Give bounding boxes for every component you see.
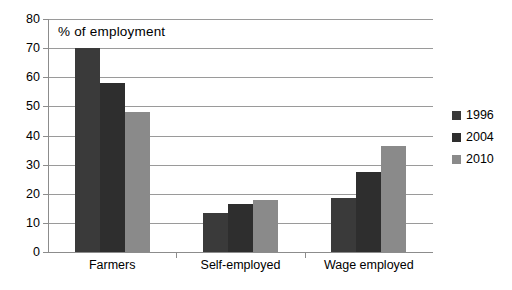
legend: 199620042010 bbox=[452, 104, 494, 170]
y-axis-tick-label: 50 bbox=[26, 100, 40, 113]
y-axis-tick bbox=[43, 165, 49, 166]
y-axis-tick bbox=[43, 136, 49, 137]
y-axis-tick bbox=[43, 194, 49, 195]
x-axis-tick bbox=[305, 252, 306, 258]
bar-farmers-1996 bbox=[75, 48, 100, 252]
x-axis-label-wage-employed: Wage employed bbox=[324, 258, 414, 272]
legend-item-2010[interactable]: 2010 bbox=[452, 148, 494, 170]
legend-swatch-icon bbox=[452, 111, 461, 120]
legend-swatch-icon bbox=[452, 155, 461, 164]
bar-farmers-2010 bbox=[125, 112, 150, 252]
legend-label: 2004 bbox=[466, 130, 494, 144]
y-axis-tick bbox=[43, 77, 49, 78]
bar-wage-employed-2004 bbox=[356, 172, 381, 252]
y-axis-tick-label: 10 bbox=[26, 217, 40, 230]
bar-wage-employed-1996 bbox=[331, 198, 356, 252]
x-axis-label-self-employed: Self-employed bbox=[201, 258, 281, 272]
gridline bbox=[49, 48, 433, 49]
gridline bbox=[49, 19, 433, 20]
bar-farmers-2004 bbox=[100, 83, 125, 252]
plot-area: 01020304050607080 bbox=[48, 19, 433, 253]
y-axis-tick bbox=[43, 223, 49, 224]
x-axis-label-farmers: Farmers bbox=[89, 258, 136, 272]
legend-label: 1996 bbox=[466, 108, 494, 122]
legend-item-2004[interactable]: 2004 bbox=[452, 126, 494, 148]
bar-self-employed-2010 bbox=[253, 200, 278, 252]
bar-chart: % of employment 01020304050607080 Farmer… bbox=[0, 0, 512, 290]
gridline bbox=[49, 77, 433, 78]
x-axis-line bbox=[48, 252, 433, 253]
y-axis-tick-label: 40 bbox=[26, 129, 40, 142]
y-axis-tick-label: 70 bbox=[26, 42, 40, 55]
y-axis-tick bbox=[43, 252, 49, 253]
y-axis-tick-label: 30 bbox=[26, 158, 40, 171]
y-axis-tick-label: 60 bbox=[26, 71, 40, 84]
y-axis-tick-label: 20 bbox=[26, 188, 40, 201]
y-axis-tick-label: 80 bbox=[26, 13, 40, 26]
legend-item-1996[interactable]: 1996 bbox=[452, 104, 494, 126]
x-axis-tick bbox=[176, 252, 177, 258]
bar-wage-employed-2010 bbox=[381, 146, 406, 252]
y-axis-tick bbox=[43, 48, 49, 49]
y-axis-tick bbox=[43, 19, 49, 20]
bar-self-employed-2004 bbox=[228, 204, 253, 252]
bar-self-employed-1996 bbox=[203, 213, 228, 252]
y-axis-tick-label: 0 bbox=[33, 246, 40, 259]
legend-swatch-icon bbox=[452, 133, 461, 142]
legend-label: 2010 bbox=[466, 152, 494, 166]
y-axis-tick bbox=[43, 106, 49, 107]
